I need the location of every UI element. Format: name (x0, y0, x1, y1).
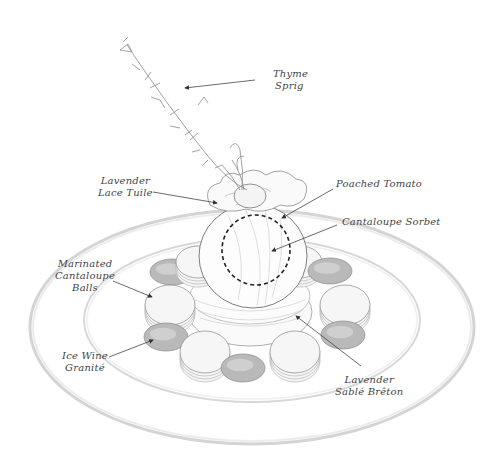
label-thyme-sprig: Thyme Sprig (273, 68, 308, 92)
thyme-sprig (120, 37, 247, 190)
ice-wine-granite (221, 354, 265, 382)
ice-wine-granite (321, 321, 365, 349)
leader-thyme (185, 80, 255, 88)
label-poached-tomato: Poached Tomato (336, 178, 422, 190)
cantaloupe-ball (180, 331, 230, 382)
plate-illustration (0, 0, 499, 463)
cantaloupe-sorbet (199, 204, 307, 308)
ice-wine-granite (308, 258, 352, 284)
label-ice-wine-granite: Ice Wine Granité (62, 350, 108, 374)
label-cantaloupe-sorbet: Cantaloupe Sorbet (342, 216, 441, 228)
label-lavender-lace-tuile: Lavender Lace Tuile (98, 175, 153, 199)
lace-tuile (208, 170, 307, 211)
label-marinated-cantaloupe-balls: Marinated Cantaloupe Balls (55, 258, 115, 294)
dessert-diagram: Thyme Sprig Lavender Lace Tuile Poached … (0, 0, 499, 463)
label-lavender-sable-breton: Lavender Sablé Brêton (335, 374, 403, 398)
cantaloupe-ball (270, 331, 320, 382)
